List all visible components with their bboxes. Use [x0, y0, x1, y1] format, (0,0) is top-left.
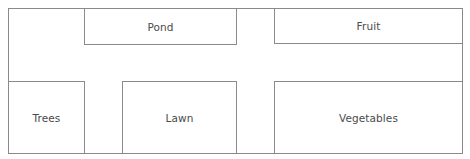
plot-label-vegetables: Vegetables	[339, 112, 398, 124]
plot-fruit: Fruit	[274, 8, 463, 44]
plot-label-pond: Pond	[147, 21, 173, 33]
plot-lawn: Lawn	[122, 81, 237, 154]
plot-pond: Pond	[84, 8, 237, 45]
plot-label-lawn: Lawn	[166, 112, 194, 124]
plot-label-trees: Trees	[33, 112, 61, 124]
plot-label-fruit: Fruit	[357, 20, 381, 32]
plot-trees: Trees	[8, 81, 85, 154]
plot-vegetables: Vegetables	[274, 81, 463, 154]
